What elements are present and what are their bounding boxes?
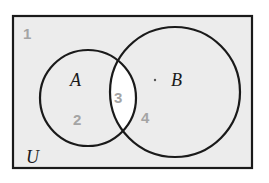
region-3-label: 3 [114,89,122,106]
set-b-label: B [171,70,182,90]
venn-diagram: 1 2 3 4 A B U [0,0,269,183]
point-marker [154,79,156,81]
universe-label: U [26,147,40,167]
region-4-label: 4 [141,109,150,126]
region-1-label: 1 [23,25,31,42]
region-2-label: 2 [73,111,81,128]
set-a-label: A [69,70,82,90]
